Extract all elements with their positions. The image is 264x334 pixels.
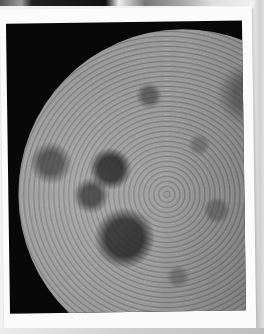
moon-photo <box>6 20 246 313</box>
moon-surface <box>16 27 246 314</box>
bottom-photo-strip <box>0 328 264 334</box>
top-photo-strip <box>0 0 264 6</box>
photo-print <box>0 6 256 331</box>
